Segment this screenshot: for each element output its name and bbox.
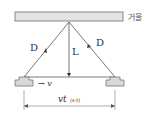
distance-right-arrow-icon [111,104,115,108]
left-path-label: D [30,42,38,53]
mirror [15,12,123,21]
distance-left-arrow-icon [24,104,28,108]
left-block [15,77,33,86]
light-clock-diagram: 거울 D D L → v vt (s-t) [0,0,158,117]
right-block [106,77,124,86]
distance-label: vt [58,94,67,104]
distance-subscript: (s-t) [70,97,80,103]
velocity-label: → v [38,79,52,88]
mirror-label: 거울 [128,13,142,22]
height-label: L [72,46,79,57]
right-path-label: D [96,37,104,48]
height-arrow-icon [67,73,71,77]
